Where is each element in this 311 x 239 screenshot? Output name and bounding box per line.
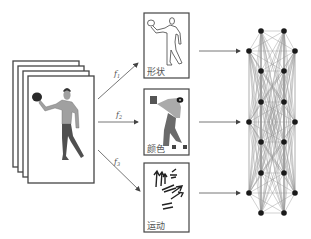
arrow-f3 <box>98 150 140 191</box>
arrow-f1 <box>98 63 138 99</box>
graph-edge <box>249 31 261 51</box>
label-f2: f2 <box>115 110 122 120</box>
graph-node <box>258 170 264 176</box>
graph-node <box>246 190 252 196</box>
ball-icon <box>32 93 42 102</box>
graph-node <box>281 99 287 105</box>
graph-input-arrows <box>199 51 240 193</box>
graph-node <box>246 48 252 54</box>
feature-label-color: 颜色 <box>147 143 165 154</box>
graph-node <box>281 139 287 145</box>
feature-color-panel: 颜色 <box>144 89 189 155</box>
graph-node <box>246 119 252 125</box>
feature-label-shape: 形状 <box>147 66 165 77</box>
graph-node <box>258 68 264 74</box>
video-frame-stack <box>13 61 94 183</box>
feature-motion-panel: 运动 <box>144 163 189 232</box>
graph-node <box>281 28 287 34</box>
feature-shape-panel: 形状 <box>144 13 189 78</box>
mapping-arrows: f1 f2 f3 <box>98 63 140 191</box>
diagram-canvas: f1 f2 f3 形状 颜色 <box>0 0 311 239</box>
graph-edge <box>249 102 261 122</box>
graph-node <box>258 210 264 216</box>
graph-node <box>292 119 298 125</box>
feature-label-motion: 运动 <box>147 221 165 231</box>
graph-node <box>281 210 287 216</box>
graph-node <box>281 68 287 74</box>
label-f1: f1 <box>113 69 120 79</box>
graph-edge <box>249 193 261 213</box>
graph-node <box>258 139 264 145</box>
graph-node <box>281 170 287 176</box>
frame-front <box>28 76 94 183</box>
graph-node <box>258 99 264 105</box>
label-f3: f3 <box>113 157 120 167</box>
graph-node <box>292 48 298 54</box>
graph-node <box>292 190 298 196</box>
graph-edges <box>249 31 295 213</box>
graph-node <box>258 28 264 34</box>
